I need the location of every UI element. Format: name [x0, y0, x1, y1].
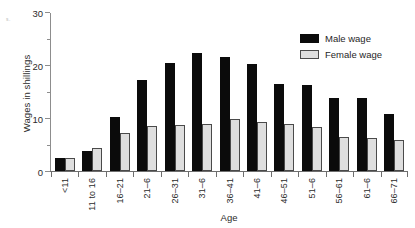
y-axis-tick [45, 118, 50, 119]
bar-female-wage [312, 127, 322, 171]
bar-group [271, 13, 298, 171]
x-axis-tick [381, 172, 408, 177]
bar-male-wage [384, 114, 394, 171]
y-axis-tick-label: 20 [32, 61, 43, 72]
y-axis-title: Wages in shillings [21, 24, 32, 164]
x-axis-tick [353, 172, 380, 177]
x-axis-category-label: 16–21 [115, 178, 125, 204]
x-axis-tick [326, 172, 353, 177]
legend-label-female-wage: Female wage [325, 49, 382, 60]
x-axis-category-label: <11 [60, 178, 70, 193]
bar-male-wage [165, 63, 175, 171]
bar-group [216, 13, 243, 171]
legend-item-female-wage: Female wage [300, 47, 382, 61]
bar-male-wage [82, 151, 92, 171]
x-axis-tick [188, 172, 215, 177]
bar-female-wage [65, 158, 75, 171]
legend-swatch-male-wage [300, 34, 319, 43]
x-axis-tick [243, 172, 270, 177]
x-axis-category-label: 31–6 [197, 178, 207, 198]
bar-male-wage [274, 84, 284, 171]
x-axis-tick [78, 172, 105, 177]
x-axis-tick [161, 172, 188, 177]
x-axis-ticks [51, 172, 408, 177]
bar-female-wage [175, 125, 185, 171]
bar-group [188, 13, 215, 171]
bar-group [78, 13, 105, 171]
legend-swatch-female-wage [300, 50, 319, 59]
x-axis-category-label: 41–6 [252, 178, 262, 198]
x-axis-category-label: 26–31 [170, 178, 180, 204]
bar-female-wage [230, 119, 240, 171]
x-axis-category-label: 21–6 [142, 178, 152, 198]
wages-by-age-bar-chart: s. Wages in shillings 0102030 <1111 to 1… [0, 0, 415, 228]
x-axis-tick [51, 172, 78, 177]
legend-item-male-wage: Male wage [300, 31, 382, 45]
x-axis-category-label: 46–51 [279, 178, 289, 204]
bar-group [161, 13, 188, 171]
x-axis-category-label: 61–6 [362, 178, 372, 198]
x-axis-category-label: 11 to 16 [87, 178, 97, 211]
y-axis-minor-tick [47, 92, 50, 93]
bar-male-wage [302, 85, 312, 171]
bar-male-wage [55, 158, 65, 171]
x-axis-tick [271, 172, 298, 177]
bar-male-wage [137, 80, 147, 171]
x-axis-category-label: 36–41 [225, 178, 235, 204]
x-axis-tick [298, 172, 325, 177]
y-axis-minor-tick [47, 39, 50, 40]
bar-female-wage [92, 148, 102, 171]
bar-female-wage [202, 124, 212, 171]
chart-legend: Male wage Female wage [300, 31, 382, 63]
bar-male-wage [329, 98, 339, 171]
x-axis-category-label: 51–6 [307, 178, 317, 198]
y-axis-minor-tick [47, 145, 50, 146]
y-axis-tick [45, 12, 50, 13]
x-axis-category-label: 56–61 [334, 178, 344, 204]
legend-label-male-wage: Male wage [325, 33, 371, 44]
bar-group [381, 13, 408, 171]
y-axis-tick-label: 0 [38, 167, 43, 178]
bar-group [133, 13, 160, 171]
bar-female-wage [147, 126, 157, 171]
y-axis-tick-label: 30 [32, 8, 43, 19]
x-axis-tick [133, 172, 160, 177]
bar-male-wage [110, 117, 120, 171]
bar-female-wage [367, 138, 377, 171]
x-axis-tick [106, 172, 133, 177]
scan-artifact: s. [6, 16, 11, 22]
bar-group [51, 13, 78, 171]
x-axis-title: Age [50, 212, 408, 223]
bar-female-wage [120, 133, 130, 171]
bar-female-wage [339, 137, 349, 171]
x-axis-category-label: 66–71 [389, 178, 399, 204]
bar-male-wage [192, 53, 202, 172]
y-axis-tick-label: 10 [32, 114, 43, 125]
bar-female-wage [284, 124, 294, 171]
bar-group [106, 13, 133, 171]
bar-female-wage [257, 122, 267, 172]
bar-female-wage [394, 140, 404, 171]
bar-male-wage [247, 64, 257, 171]
y-axis-tick [45, 65, 50, 66]
bar-male-wage [220, 57, 230, 171]
bar-group [243, 13, 270, 171]
x-axis-tick [216, 172, 243, 177]
y-axis-tick [45, 171, 50, 172]
bar-male-wage [357, 98, 367, 171]
